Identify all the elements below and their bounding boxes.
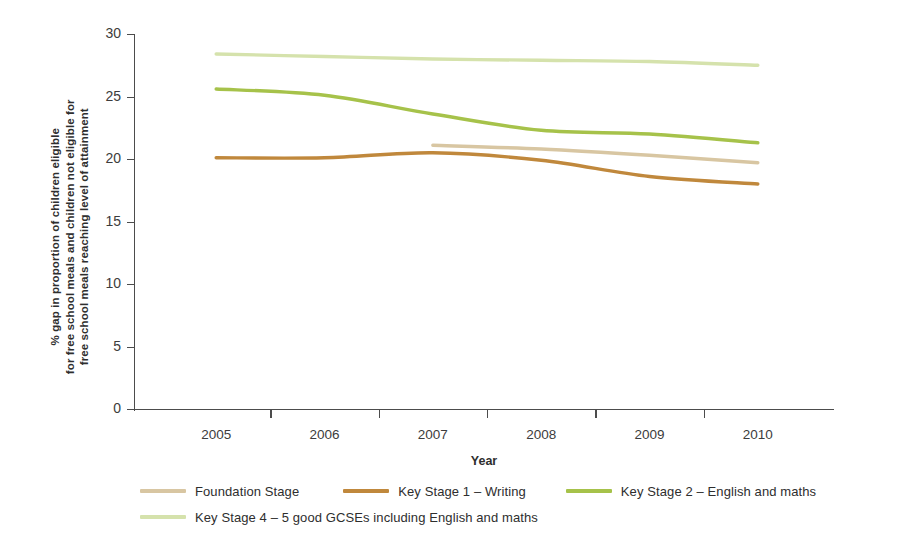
legend-item[interactable]: Key Stage 1 – Writing [343, 484, 526, 499]
legend-row: Key Stage 4 – 5 good GCSEs including Eng… [140, 504, 880, 530]
x-axis-tick-label: 2009 [634, 427, 664, 442]
legend-label: Key Stage 2 – English and maths [621, 484, 816, 499]
y-axis-tick-label: 5 [113, 338, 121, 354]
y-axis-title-line-2: for free school meals and children not e… [63, 57, 78, 417]
legend-item[interactable]: Foundation Stage [140, 484, 299, 499]
y-axis-tick-label: 0 [113, 400, 121, 416]
x-axis-tick-label: 2005 [201, 427, 231, 442]
y-axis-tick-label: 20 [105, 150, 121, 166]
x-axis-tick-label: 2007 [418, 427, 448, 442]
y-axis-tick: 10 [127, 284, 134, 285]
y-axis-title: % gap in proportion of children eligible… [48, 57, 92, 417]
y-axis-tick: 15 [127, 222, 134, 223]
chart-legend: Foundation StageKey Stage 1 – WritingKey… [140, 478, 880, 530]
x-axis-tick [704, 410, 705, 418]
line-chart: % gap in proportion of children eligible… [0, 0, 903, 554]
y-axis-tick-label: 25 [105, 88, 121, 104]
legend-label: Foundation Stage [195, 484, 299, 499]
legend-swatch-icon [140, 515, 186, 519]
y-axis-tick: 25 [127, 97, 134, 98]
legend-label: Key Stage 1 – Writing [398, 484, 526, 499]
legend-item[interactable]: Key Stage 2 – English and maths [566, 484, 816, 499]
series-lines [134, 28, 834, 410]
x-axis-tick [595, 410, 596, 418]
y-axis-tick-label: 30 [105, 25, 121, 41]
x-axis-tick [487, 410, 488, 418]
y-axis-title-line-3: free school meals reaching level of atta… [77, 57, 92, 417]
x-axis-tick-label: 2010 [743, 427, 773, 442]
legend-swatch-icon [140, 489, 186, 493]
y-axis-tick-label: 15 [105, 213, 121, 229]
legend-swatch-icon [566, 489, 612, 493]
y-axis-tick-label: 10 [105, 275, 121, 291]
y-axis-tick: 30 [127, 34, 134, 35]
series-line-3 [216, 89, 758, 143]
legend-label: Key Stage 4 – 5 good GCSEs including Eng… [195, 510, 538, 525]
legend-swatch-icon [343, 489, 389, 493]
y-axis-tick: 0 [127, 409, 134, 410]
y-axis-tick: 20 [127, 159, 134, 160]
series-line-4 [216, 54, 758, 65]
legend-row: Foundation StageKey Stage 1 – WritingKey… [140, 478, 880, 504]
y-axis-tick: 5 [127, 347, 134, 348]
x-axis-tick [270, 410, 271, 418]
x-axis-tick [379, 410, 380, 418]
y-axis-title-line-1: % gap in proportion of children eligible [48, 57, 63, 417]
legend-item[interactable]: Key Stage 4 – 5 good GCSEs including Eng… [140, 510, 538, 525]
x-axis-tick-label: 2008 [526, 427, 556, 442]
x-axis-title: Year [134, 454, 834, 468]
plot-area: 051015202530 200520062007200820092010 Ye… [134, 28, 834, 410]
x-axis-tick-label: 2006 [309, 427, 339, 442]
